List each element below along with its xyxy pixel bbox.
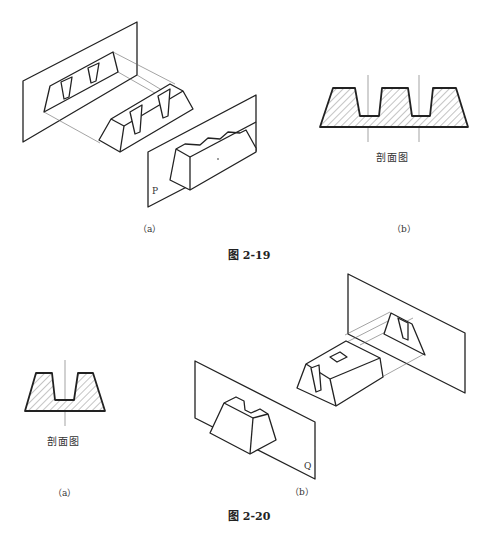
plane-p-label: P [152,186,158,196]
fig-2-19a-label: （a） [138,222,161,235]
fig-2-19b-label: （b） [392,222,416,235]
fig-2-20a-section [25,360,105,426]
plane-q-label: Q [304,461,311,471]
fig-2-19-caption: 图 2-19 [228,246,270,262]
fig-2-19b-section [320,75,468,142]
fig-2-19a-drawing [23,22,256,207]
fig-2-20a-section-label: 剖面图 [47,433,80,448]
fig-2-20-caption: 图 2-20 [228,507,270,523]
drawing-canvas [0,0,486,539]
fig-2-20a-label: （a） [53,486,76,499]
fig-2-20b-drawing [195,274,465,479]
fig-2-20b-label: （b） [290,485,314,498]
fig-2-19b-section-label: 剖面图 [376,149,409,164]
